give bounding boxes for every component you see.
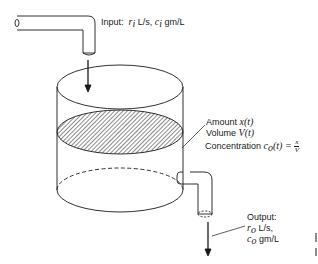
output-conc-unit: gm/L xyxy=(259,234,279,244)
amount-prefix: Amount xyxy=(206,117,237,127)
input-label: Input: ri L/s, ci gm/L xyxy=(101,17,185,29)
output-label-leader xyxy=(212,226,245,236)
output-rate-unit: L/s, xyxy=(258,223,273,233)
mixing-tank-diagram: Input: ri L/s, ci gm/L Amount x(t) Volum… xyxy=(0,0,318,264)
volume-symbol: V(t) xyxy=(239,127,255,138)
concentration-arg: (t) = xyxy=(273,140,292,151)
volume-prefix: Volume xyxy=(206,128,236,138)
input-pipe xyxy=(15,16,95,55)
input-conc-unit: gm/L xyxy=(165,17,185,27)
concentration-prefix: Concentration xyxy=(205,141,261,151)
input-conc-sub: i xyxy=(159,18,162,29)
output-title: Output: xyxy=(247,212,277,222)
liquid-surface xyxy=(57,110,183,154)
input-prefix: Input: xyxy=(101,17,124,27)
tank-label-leader xyxy=(182,125,205,148)
input-rate-unit: L/s, xyxy=(138,17,153,27)
fraction-denominator: V xyxy=(294,147,299,154)
input-flow-arrow-icon xyxy=(85,60,91,92)
concentration-fraction: x V xyxy=(294,139,299,154)
output-conc-sub: o xyxy=(251,235,256,246)
amount-symbol: x(t) xyxy=(240,116,254,127)
concentration-label: Concentration co(t) = x V xyxy=(205,139,299,154)
amount-label: Amount x(t) xyxy=(206,117,253,127)
volume-label: Volume V(t) xyxy=(206,128,254,138)
output-flow-arrow-icon xyxy=(205,222,211,256)
input-rate-sub: i xyxy=(132,18,135,29)
output-conc: co gm/L xyxy=(247,234,279,246)
